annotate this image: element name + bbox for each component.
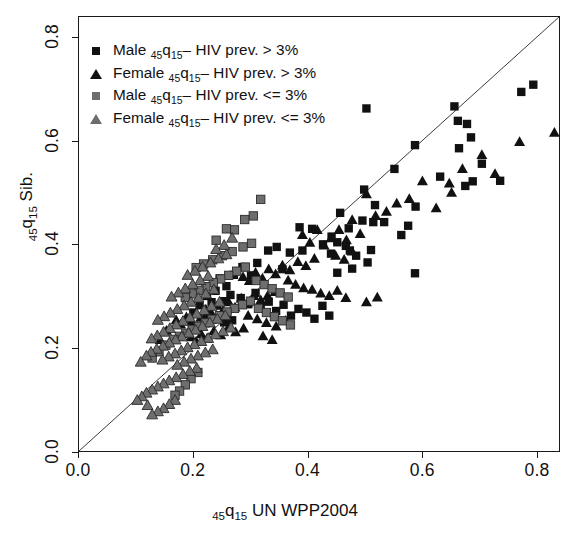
- data-point-square: [268, 285, 276, 293]
- data-point-square: [367, 246, 375, 254]
- data-point-square: [333, 269, 341, 277]
- x-tick-label: 0.2: [180, 460, 205, 481]
- legend-square-icon: [88, 47, 104, 55]
- data-point-square: [257, 195, 265, 203]
- data-point-triangle: [417, 176, 428, 186]
- legend-item-label: Female 45q15– HIV prev. > 3%: [113, 64, 316, 84]
- square-glyph: [92, 92, 100, 100]
- data-point-square: [411, 141, 419, 149]
- data-point-triangle: [341, 234, 352, 244]
- data-point-triangle: [309, 253, 320, 263]
- square-glyph: [92, 47, 100, 55]
- legend-triangle-icon: [88, 114, 104, 124]
- data-point-square: [270, 312, 278, 320]
- y-tick-label: 0.2: [40, 337, 64, 358]
- data-point-square: [404, 222, 412, 230]
- data-point-square: [436, 172, 444, 180]
- data-point-square: [238, 301, 246, 309]
- legend-item-label: Female 45q15– HIV prev. <= 3%: [113, 109, 325, 129]
- data-point-square: [380, 218, 388, 226]
- data-point-square: [461, 182, 469, 190]
- legend-item: Male 45q15– HIV prev. > 3%: [88, 40, 325, 63]
- y-tick-label: 0.0: [40, 441, 64, 462]
- data-point-square: [276, 289, 284, 297]
- data-point-triangle: [514, 136, 525, 146]
- data-point-square: [454, 117, 462, 125]
- data-point-triangle: [457, 163, 468, 173]
- y-tick-mark: [72, 37, 78, 38]
- data-point-triangle: [332, 285, 343, 295]
- data-point-square: [273, 243, 281, 251]
- legend-item: Male 45q15– HIV prev. <= 3%: [88, 85, 325, 108]
- data-point-square: [239, 243, 247, 251]
- data-point-triangle: [243, 310, 254, 320]
- data-point-square: [253, 259, 261, 267]
- legend-item-label: Male 45q15– HIV prev. > 3%: [113, 41, 298, 61]
- data-point-triangle: [324, 290, 335, 300]
- triangle-glyph: [90, 114, 102, 124]
- legend-item: Female 45q15– HIV prev. <= 3%: [88, 108, 325, 131]
- data-point-triangle: [381, 206, 392, 216]
- data-point-square: [294, 305, 302, 313]
- data-point-square: [318, 302, 326, 310]
- data-point-triangle: [307, 284, 318, 294]
- x-tick-mark: [422, 452, 423, 458]
- data-point-square: [371, 201, 379, 209]
- data-point-square: [325, 311, 333, 319]
- triangle-glyph: [90, 69, 102, 79]
- data-point-triangle: [203, 271, 214, 281]
- data-point-square: [345, 224, 353, 232]
- data-point-square: [469, 177, 477, 185]
- legend-triangle-icon: [88, 69, 104, 79]
- data-point-triangle: [490, 168, 501, 178]
- data-point-square: [222, 225, 230, 233]
- data-point-square: [302, 308, 310, 316]
- data-point-square: [463, 120, 471, 128]
- y-tick-mark: [72, 244, 78, 245]
- data-point-square: [358, 216, 366, 224]
- data-point-square: [529, 81, 537, 89]
- data-point-square: [286, 248, 294, 256]
- data-point-triangle: [391, 198, 402, 208]
- data-point-square: [298, 246, 306, 254]
- data-point-triangle: [431, 202, 442, 212]
- data-point-square: [362, 104, 370, 112]
- data-point-square: [336, 209, 344, 217]
- data-point-triangle: [263, 263, 274, 273]
- x-tick-label: 0.6: [410, 460, 435, 481]
- data-point-square: [279, 301, 287, 309]
- legend: Male 45q15– HIV prev. > 3%Female 45q15– …: [88, 40, 325, 130]
- data-point-square: [254, 304, 262, 312]
- data-point-square: [246, 297, 254, 305]
- legend-item: Female 45q15– HIV prev. > 3%: [88, 63, 325, 86]
- y-tick-mark: [72, 452, 78, 453]
- data-point-triangle: [258, 331, 269, 341]
- data-point-triangle: [372, 292, 383, 302]
- data-point-square: [247, 239, 255, 247]
- y-tick-mark: [72, 348, 78, 349]
- data-point-square: [252, 276, 260, 284]
- data-point-square: [310, 315, 318, 323]
- data-point-square: [455, 144, 463, 152]
- data-point-square: [450, 102, 458, 110]
- data-point-square: [264, 246, 272, 254]
- data-point-square: [517, 88, 525, 96]
- data-point-triangle: [355, 228, 366, 238]
- data-point-triangle: [347, 214, 358, 224]
- data-point-square: [411, 269, 419, 277]
- data-point-triangle: [238, 323, 249, 333]
- data-point-triangle: [252, 314, 263, 324]
- data-point-square: [286, 321, 294, 329]
- data-point-square: [225, 271, 233, 279]
- data-point-triangle: [267, 334, 278, 344]
- data-point-square: [287, 311, 295, 319]
- data-point-triangle: [444, 178, 455, 188]
- legend-item-label: Male 45q15– HIV prev. <= 3%: [113, 86, 307, 106]
- data-point-square: [284, 293, 292, 301]
- legend-square-icon: [88, 92, 104, 100]
- data-point-triangle: [549, 127, 559, 137]
- data-point-triangle: [207, 344, 218, 354]
- data-point-triangle: [277, 260, 288, 270]
- y-tick-label: 0.8: [40, 26, 64, 47]
- x-tick-mark: [537, 452, 538, 458]
